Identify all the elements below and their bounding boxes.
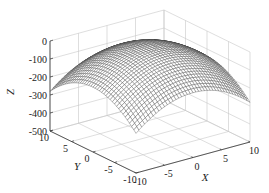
floor-grid-line [93,121,207,152]
z-tick-label: -100 [29,54,47,65]
y-tick [136,172,139,173]
z-tick [50,40,53,41]
y-tick-label: 0 [85,153,90,164]
y-tick-label: -5 [104,164,112,175]
x-tick [191,157,193,158]
x-tick [220,149,222,150]
y-tick [115,162,118,163]
surface-plot: 0-100-200-300-400-500-10-50510-10-50510 … [0,0,269,193]
floor-grid-line [115,132,229,163]
z-tick [50,94,53,95]
z-tick [50,76,53,77]
x-tick-label: -5 [164,168,172,179]
z-tick-label: 0 [42,36,47,47]
z-tick-label: -300 [29,90,47,101]
y-tick [72,141,75,142]
y-tick-label: 5 [63,143,68,154]
x-tick [163,164,165,165]
z-axis-label: Z [4,88,16,95]
y-tick [93,151,96,152]
x-tick-label: 10 [249,145,259,156]
z-tick [50,58,53,59]
x-tick-label: 5 [223,153,228,164]
x-tick-label: 0 [195,161,200,172]
x-tick-label: -10 [133,176,146,187]
z-tick [50,112,53,113]
y-axis-label: Y [74,160,82,172]
y-tick-label: 10 [39,132,49,143]
x-axis-label: X [201,171,210,183]
z-tick-label: -200 [29,72,47,83]
x-tick [134,172,136,173]
z-tick-label: -400 [29,108,47,119]
